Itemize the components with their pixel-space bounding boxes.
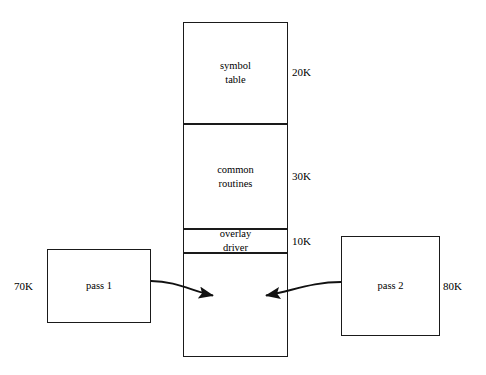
size-label-pass-2: 80K: [443, 279, 462, 293]
memory-segment-label-common-routines: common routines: [183, 163, 288, 191]
memory-segment-label-symbol-table: symbol table: [183, 59, 288, 87]
pass-2-label: pass 2: [341, 279, 440, 293]
size-label-symbol-table: 20K: [292, 65, 311, 79]
size-label-common-routines: 30K: [292, 169, 311, 183]
pass-1-label: pass 1: [47, 279, 151, 293]
diagram-canvas: symbol table common routines overlay dri…: [0, 0, 486, 375]
size-label-pass-1: 70K: [14, 279, 33, 293]
memory-segment-label-overlay-driver: overlay driver: [183, 227, 288, 255]
memory-segment-overlay-area: [183, 253, 288, 357]
size-label-overlay-driver: 10K: [292, 234, 311, 248]
